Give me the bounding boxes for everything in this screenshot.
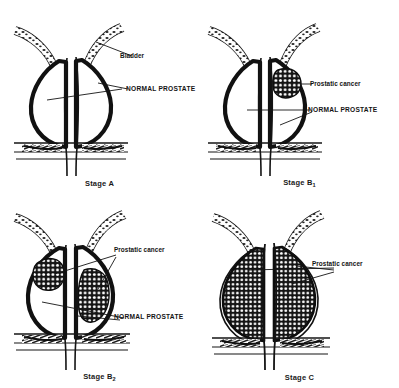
prostate-lobe-left — [31, 61, 66, 147]
panel-stage-b2: Prostatic cancer NORMAL PROSTATE Stage B… — [0, 194, 199, 388]
urogenital-diaphragm — [208, 143, 322, 159]
prostate-lobe-right — [76, 60, 111, 147]
stage-label-c-text: Stage C — [285, 373, 314, 382]
stage-label-b2-subscript: 2 — [113, 376, 116, 382]
stage-label-b2-text: Stage B — [83, 372, 112, 381]
label-normal-prostate: NORMAL PROSTATE — [126, 85, 195, 92]
label-normal-prostate: NORMAL PROSTATE — [114, 313, 183, 320]
stage-label-b1: Stage B1 — [200, 178, 399, 188]
stage-label-b2: Stage B2 — [0, 372, 199, 382]
panel-stage-a: Bladder NORMAL PROSTATE Stage A — [0, 0, 199, 194]
stage-label-b1-subscript: 1 — [313, 182, 316, 188]
label-normal-prostate: NORMAL PROSTATE — [308, 106, 377, 113]
stage-label-b1-text: Stage B — [283, 178, 312, 187]
urogenital-diaphragm — [212, 338, 330, 354]
stage-label-a: Stage A — [0, 179, 199, 188]
tumor-filled-lobe-left — [223, 248, 264, 341]
panel-stage-b1: Prostatic cancer NORMAL PROSTATE Stage B… — [200, 0, 399, 194]
label-bladder: Bladder — [120, 52, 144, 59]
tumor-nodule-1 — [273, 68, 301, 97]
label-prostatic-cancer: Prostatic cancer — [114, 246, 165, 253]
label-prostatic-cancer: Prostatic cancer — [312, 260, 363, 267]
urogenital-diaphragm — [14, 143, 128, 159]
stage-label-a-text: Stage A — [85, 179, 114, 188]
prostate-lobe-left — [225, 61, 260, 147]
panel-stage-c: Prostatic cancer Stage C — [200, 194, 399, 388]
tumor-nodule-1 — [33, 259, 64, 291]
urogenital-diaphragm — [14, 334, 130, 350]
stage-label-c: Stage C — [200, 373, 399, 382]
label-prostatic-cancer: Prostatic cancer — [310, 80, 361, 87]
prostate-cancer-stages-figure: Bladder NORMAL PROSTATE Stage A — [0, 0, 399, 388]
